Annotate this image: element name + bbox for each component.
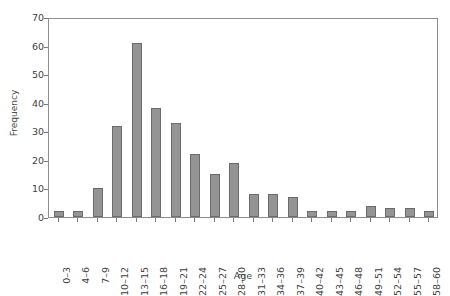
y-axis-tick-label: 60 (20, 42, 44, 52)
bar (112, 126, 122, 217)
x-axis-tick-mark (194, 218, 195, 222)
bar (229, 163, 239, 217)
bar (73, 211, 83, 217)
bar (54, 211, 64, 217)
bar (210, 174, 220, 217)
bar (249, 194, 259, 217)
x-axis-tick-mark (292, 218, 293, 222)
x-axis-tick-mark (370, 218, 371, 222)
bar (93, 188, 103, 217)
bar (424, 211, 434, 217)
x-axis-tick-mark (350, 218, 351, 222)
bar (288, 197, 298, 217)
x-axis-tick-mark (272, 218, 273, 222)
x-axis-tick-mark (77, 218, 78, 222)
bar (366, 206, 376, 217)
x-axis-tick-mark (97, 218, 98, 222)
bar (171, 123, 181, 217)
x-axis-tick-mark (409, 218, 410, 222)
plot-area (48, 18, 438, 218)
bar (307, 211, 317, 217)
bars-layer (49, 19, 437, 217)
bar (268, 194, 278, 217)
y-axis-tick-label: 0 (20, 213, 44, 223)
bar (327, 211, 337, 217)
x-axis-tick-mark (311, 218, 312, 222)
x-axis-tick-mark (214, 218, 215, 222)
x-axis-tick-mark (136, 218, 137, 222)
x-axis-tick-mark (389, 218, 390, 222)
x-axis-title: Age (48, 270, 438, 281)
bar (132, 43, 142, 217)
y-axis-tick-label: 40 (20, 99, 44, 109)
x-axis-tick-mark (116, 218, 117, 222)
x-axis-tick-mark (175, 218, 176, 222)
x-axis-tick-mark (428, 218, 429, 222)
x-axis-tick-mark (233, 218, 234, 222)
bar (151, 108, 161, 217)
y-axis-tick-label: 50 (20, 70, 44, 80)
bar (405, 208, 415, 217)
x-axis-tick-labels: 0–34–67–910–1213–1516–1819–2122–2425–272… (48, 223, 438, 269)
bar (190, 154, 200, 217)
y-axis-tick-label: 20 (20, 156, 44, 166)
y-axis-tick-labels: 010203040506070 (20, 18, 44, 218)
x-axis-tick-mark (58, 218, 59, 222)
x-axis-tick-mark (331, 218, 332, 222)
y-axis-tick-label: 10 (20, 185, 44, 195)
bar (385, 208, 395, 217)
y-axis-tick-label: 70 (20, 13, 44, 23)
x-axis-tick-mark (155, 218, 156, 222)
x-axis-tick-mark (253, 218, 254, 222)
y-axis-tick-label: 30 (20, 128, 44, 138)
bar (346, 211, 356, 217)
y-axis-title-text: Frequency (9, 89, 19, 136)
